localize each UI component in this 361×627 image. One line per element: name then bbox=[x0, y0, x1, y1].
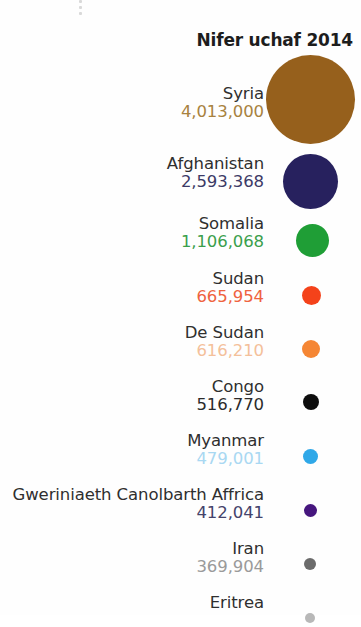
chart-title: Nifer uchaf 2014 bbox=[197, 30, 353, 50]
bubble-marker[interactable] bbox=[304, 504, 317, 517]
row-labels: Somalia 1,106,068 bbox=[0, 215, 264, 251]
bubble-row-myanmar[interactable]: Myanmar 479,001 bbox=[0, 429, 361, 485]
bubble-marker[interactable] bbox=[305, 613, 315, 623]
bubble-row-somalia[interactable]: Somalia 1,106,068 bbox=[0, 212, 361, 270]
bubble-marker[interactable] bbox=[302, 286, 321, 305]
bubble-row-iran[interactable]: Iran 369,904 bbox=[0, 537, 361, 593]
country-label: Afghanistan bbox=[0, 155, 264, 173]
bubble-row-congo[interactable]: Congo 516,770 bbox=[0, 375, 361, 431]
bubble-marker[interactable] bbox=[304, 558, 316, 570]
country-label: Sudan bbox=[0, 270, 264, 288]
country-label: Eritrea bbox=[0, 594, 264, 612]
row-labels: De Sudan 616,210 bbox=[0, 324, 264, 360]
country-label: Gweriniaeth Canolbarth Affrica bbox=[0, 486, 264, 504]
value-label: 2,593,368 bbox=[0, 173, 264, 191]
country-label: Myanmar bbox=[0, 432, 264, 450]
row-labels: Sudan 665,954 bbox=[0, 270, 264, 306]
bubble-marker[interactable] bbox=[303, 449, 318, 464]
value-label: 479,001 bbox=[0, 450, 264, 468]
value-label: 616,210 bbox=[0, 342, 264, 360]
value-label: 369,904 bbox=[0, 558, 264, 576]
bubble-marker[interactable] bbox=[296, 224, 329, 257]
country-label: Congo bbox=[0, 378, 264, 396]
bubble-row-sudan[interactable]: Sudan 665,954 bbox=[0, 267, 361, 323]
bubble-row-de-sudan[interactable]: De Sudan 616,210 bbox=[0, 321, 361, 377]
country-label: Somalia bbox=[0, 215, 264, 233]
value-label: 1,106,068 bbox=[0, 233, 264, 251]
bubble-marker[interactable] bbox=[303, 394, 319, 410]
row-labels: Congo 516,770 bbox=[0, 378, 264, 414]
row-labels: Myanmar 479,001 bbox=[0, 432, 264, 468]
value-label: 516,770 bbox=[0, 396, 264, 414]
row-labels: Syria 4,013,000 bbox=[0, 85, 264, 121]
ellipsis-dot bbox=[79, 0, 82, 3]
bubble-marker[interactable] bbox=[266, 55, 355, 144]
bubble-row-syria[interactable]: Syria 4,013,000 bbox=[0, 55, 361, 155]
row-labels: Iran 369,904 bbox=[0, 540, 264, 576]
ellipsis-dot bbox=[79, 12, 82, 15]
bubble-row-central-african-republic[interactable]: Gweriniaeth Canolbarth Affrica 412,041 bbox=[0, 483, 361, 539]
row-labels: Eritrea bbox=[0, 594, 264, 612]
bubble-row-afghanistan[interactable]: Afghanistan 2,593,368 bbox=[0, 151, 361, 215]
country-label: Syria bbox=[0, 85, 264, 103]
value-label: 665,954 bbox=[0, 288, 264, 306]
ellipsis-dot bbox=[79, 6, 82, 9]
bubble-row-eritrea[interactable]: Eritrea bbox=[0, 591, 361, 627]
value-label: 412,041 bbox=[0, 504, 264, 522]
bubble-marker[interactable] bbox=[283, 154, 338, 209]
country-label: De Sudan bbox=[0, 324, 264, 342]
vertical-ellipsis-icon bbox=[79, 0, 87, 20]
row-labels: Afghanistan 2,593,368 bbox=[0, 155, 264, 191]
bubble-marker[interactable] bbox=[302, 340, 320, 358]
value-label: 4,013,000 bbox=[0, 103, 264, 121]
row-labels: Gweriniaeth Canolbarth Affrica 412,041 bbox=[0, 486, 264, 522]
country-label: Iran bbox=[0, 540, 264, 558]
